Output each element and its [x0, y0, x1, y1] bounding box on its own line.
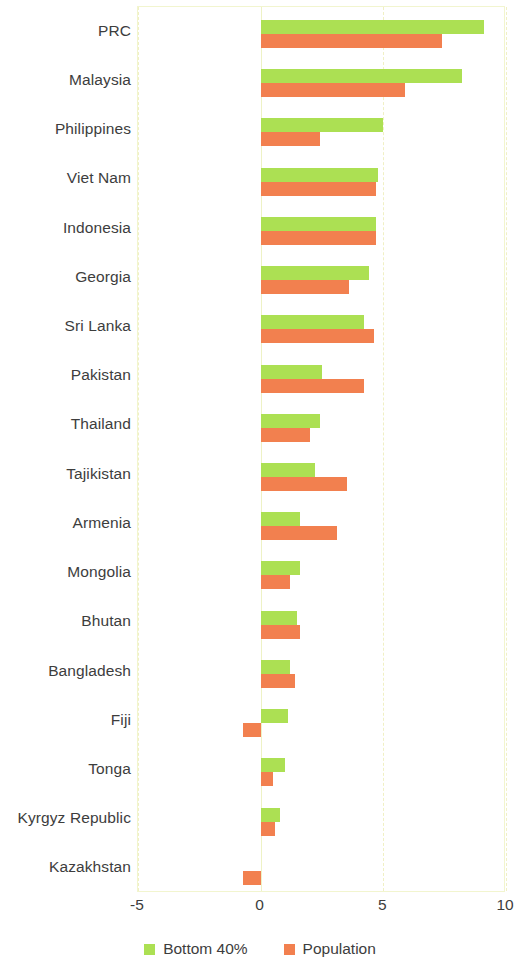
bar-bottom-40--armenia [261, 512, 300, 526]
category-label-mongolia: Mongolia [4, 564, 131, 580]
bar-group [138, 499, 504, 548]
category-label-thailand: Thailand [4, 416, 131, 432]
x-tick-label-10: 10 [496, 896, 513, 914]
bar-population-georgia [261, 280, 349, 294]
legend-item-population[interactable]: Population [284, 940, 376, 958]
bar-group [138, 696, 504, 745]
bar-bottom-40--sri-lanka [261, 315, 364, 329]
x-tick-label-5: 5 [378, 896, 387, 914]
bar-group [138, 844, 504, 893]
gridline-10 [506, 7, 507, 891]
bar-population-prc [261, 34, 443, 48]
bar-bottom-40--bangladesh [261, 660, 290, 674]
category-label-pakistan: Pakistan [4, 367, 131, 383]
bar-group [138, 155, 504, 204]
bar-population-armenia [261, 526, 337, 540]
bar-group [138, 204, 504, 253]
category-label-kazakhstan: Kazakhstan [4, 859, 131, 875]
bar-group [138, 598, 504, 647]
bar-population-philippines [261, 132, 320, 146]
legend-swatch-icon [144, 944, 155, 955]
bar-population-indonesia [261, 231, 376, 245]
category-label-malaysia: Malaysia [4, 72, 131, 88]
horizontal-bar-chart: PRCMalaysiaPhilippinesViet NamIndonesiaG… [0, 0, 520, 970]
category-label-fiji: Fiji [4, 712, 131, 728]
category-label-philippines: Philippines [4, 121, 131, 137]
bar-group [138, 105, 504, 154]
category-label-viet-nam: Viet Nam [4, 170, 131, 186]
bar-population-thailand [261, 428, 310, 442]
bar-group [138, 253, 504, 302]
bar-group [138, 7, 504, 56]
bar-bottom-40--prc [261, 20, 484, 34]
bar-bottom-40--mongolia [261, 561, 300, 575]
bar-population-pakistan [261, 379, 364, 393]
category-label-armenia: Armenia [4, 515, 131, 531]
bar-group [138, 302, 504, 351]
plot-area [137, 6, 505, 892]
category-label-bhutan: Bhutan [4, 613, 131, 629]
category-label-prc: PRC [4, 23, 131, 39]
bar-group [138, 401, 504, 450]
bar-group [138, 352, 504, 401]
category-label-georgia: Georgia [4, 269, 131, 285]
x-tick-label-neg5: -5 [130, 896, 144, 914]
category-label-tajikistan: Tajikistan [4, 466, 131, 482]
category-label-bangladesh: Bangladesh [4, 663, 131, 679]
category-label-tonga: Tonga [4, 761, 131, 777]
bar-bottom-40--fiji [261, 709, 288, 723]
x-axis-ticks: -50510 [137, 896, 505, 924]
bar-population-bhutan [261, 625, 300, 639]
bar-group [138, 548, 504, 597]
chart-legend: Bottom 40%Population [0, 940, 520, 958]
bar-bottom-40--tonga [261, 758, 286, 772]
bar-bottom-40--viet-nam [261, 168, 379, 182]
category-label-sri-lanka: Sri Lanka [4, 318, 131, 334]
bar-population-kazakhstan [243, 871, 260, 885]
bar-bottom-40--tajikistan [261, 463, 315, 477]
category-label-indonesia: Indonesia [4, 220, 131, 236]
bar-population-tonga [261, 772, 273, 786]
bar-group [138, 450, 504, 499]
bar-bottom-40--pakistan [261, 365, 322, 379]
bar-population-kyrgyz-republic [261, 822, 276, 836]
bar-group [138, 745, 504, 794]
legend-item-bottom-40-[interactable]: Bottom 40% [144, 940, 247, 958]
bar-population-fiji [243, 723, 260, 737]
bar-group [138, 795, 504, 844]
bar-bottom-40--bhutan [261, 611, 298, 625]
bar-bottom-40--philippines [261, 118, 384, 132]
category-axis-labels: PRCMalaysiaPhilippinesViet NamIndonesiaG… [0, 6, 131, 892]
bar-bottom-40--malaysia [261, 69, 462, 83]
legend-label: Population [303, 940, 376, 958]
bar-population-mongolia [261, 575, 290, 589]
legend-swatch-icon [284, 944, 295, 955]
bar-population-bangladesh [261, 674, 295, 688]
bar-population-malaysia [261, 83, 406, 97]
legend-label: Bottom 40% [163, 940, 247, 958]
bar-bottom-40--kyrgyz-republic [261, 808, 281, 822]
bar-bottom-40--indonesia [261, 217, 376, 231]
x-tick-label-0: 0 [255, 896, 264, 914]
bar-population-viet-nam [261, 182, 376, 196]
bar-bottom-40--georgia [261, 266, 369, 280]
bar-group [138, 647, 504, 696]
category-label-kyrgyz-republic: Kyrgyz Republic [4, 810, 131, 826]
bar-population-sri-lanka [261, 329, 374, 343]
bar-group [138, 56, 504, 105]
bar-population-tajikistan [261, 477, 347, 491]
bar-bottom-40--thailand [261, 414, 320, 428]
